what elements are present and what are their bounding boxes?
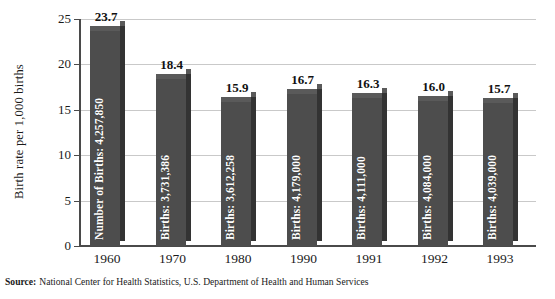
- gridline: [79, 19, 536, 20]
- bar-value-label: 16.0: [404, 79, 464, 95]
- y-tick-label: 10: [58, 147, 71, 163]
- bar-front-face: Number of Births: 4,257,850: [90, 31, 120, 246]
- x-tick-label: 1980: [205, 251, 271, 267]
- bar-annotation-label: Births: 4,111,000: [355, 156, 367, 240]
- bar-front-face: Births: 4,084,000: [418, 101, 448, 246]
- bar-annotation-label: Births: 3,612,258: [224, 155, 236, 240]
- bar-value-label: 15.9: [207, 80, 267, 96]
- bar-top-face: [156, 74, 186, 79]
- bar-top-face: [221, 97, 251, 102]
- bar-top-face: [352, 93, 382, 98]
- bar-side-face: [120, 21, 125, 241]
- y-axis-line: [79, 19, 81, 246]
- plot-area: 0510152025 Number of Births: 4,257,85023…: [79, 19, 536, 246]
- bar-front-face: Births: 3,612,258: [221, 102, 251, 246]
- x-tick-label: 1992: [402, 251, 468, 267]
- y-tick-label: 5: [65, 193, 72, 209]
- bar-annotation-label: Births: 4,179,000: [290, 155, 302, 240]
- bar-annotation-label: Births: 4,039,000: [486, 155, 498, 240]
- bar-value-label: 18.4: [142, 57, 202, 73]
- bar-annotation-label: Births: 4,084,000: [421, 155, 433, 240]
- bar-side-face: [382, 88, 387, 241]
- bar-value-label: 16.3: [338, 76, 398, 92]
- bar-side-face: [317, 84, 322, 241]
- y-tick-label: 0: [65, 238, 72, 254]
- bar-annotation-label: Number of Births: 4,257,850: [93, 98, 105, 240]
- bar[interactable]: Births: 4,179,000: [287, 89, 322, 246]
- bar-value-label: 23.7: [76, 9, 136, 25]
- bar-top-face: [483, 98, 513, 103]
- bar-front-face: Births: 4,179,000: [287, 94, 317, 246]
- bar[interactable]: Births: 4,039,000: [483, 98, 518, 246]
- bar-top-face: [287, 89, 317, 94]
- source-text: National Center for Health Statistics, U…: [39, 276, 368, 287]
- birth-rate-bar-chart-figure: Birth rate per 1,000 births 0510152025 N…: [0, 0, 555, 299]
- bar[interactable]: Births: 3,612,258: [221, 97, 256, 246]
- x-tick-label: 1960: [74, 251, 140, 267]
- bar-front-face: Births: 4,039,000: [483, 103, 513, 246]
- bar[interactable]: Number of Births: 4,257,850: [90, 26, 125, 246]
- y-tick-label: 25: [58, 11, 71, 27]
- bar-side-face: [186, 69, 191, 241]
- bar-front-face: Births: 3,731,386: [156, 79, 186, 246]
- bar-top-face: [90, 26, 120, 31]
- x-tick-label: 1993: [467, 251, 533, 267]
- bar-top-face: [418, 96, 448, 101]
- y-axis-title: Birth rate per 1,000 births: [12, 27, 27, 237]
- bar-annotation-label: Births: 3,731,386: [159, 155, 171, 240]
- source-label: Source:: [5, 276, 36, 287]
- bar-side-face: [513, 93, 518, 241]
- bar-side-face: [251, 92, 256, 241]
- x-tick-label: 1991: [336, 251, 402, 267]
- source-line: Source:National Center for Health Statis…: [5, 276, 369, 287]
- bar[interactable]: Births: 3,731,386: [156, 74, 191, 246]
- x-tick-label: 1990: [271, 251, 337, 267]
- bar[interactable]: Births: 4,111,000: [352, 93, 387, 246]
- bar-side-face: [448, 91, 453, 241]
- bar-value-label: 16.7: [273, 72, 333, 88]
- y-tick-label: 15: [58, 102, 71, 118]
- x-tick-label: 1970: [140, 251, 206, 267]
- bar-value-label: 15.7: [469, 81, 529, 97]
- y-tick-label: 20: [58, 56, 71, 72]
- bar[interactable]: Births: 4,084,000: [418, 96, 453, 246]
- bar-front-face: Births: 4,111,000: [352, 98, 382, 246]
